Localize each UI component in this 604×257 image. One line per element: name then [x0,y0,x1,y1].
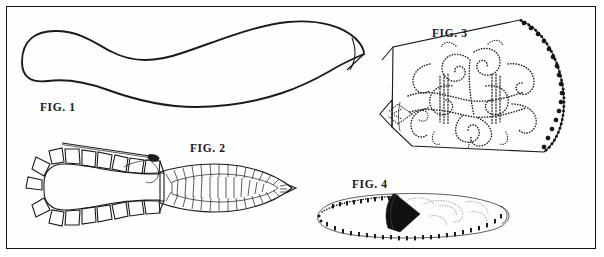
fig2-gathered-sole [26,143,296,226]
fig1-label: FIG. 1 [40,101,76,113]
fig4-finished-moccasin [318,193,510,240]
plate-artwork: .ink { fill:none; stroke:#1a1a1a; } .thi… [0,0,604,257]
fig4-label: FIG. 4 [352,178,388,190]
fig3-label: FIG. 3 [432,27,468,39]
fig3-beaded-vamp [380,20,564,154]
illustration-plate: .ink { fill:none; stroke:#1a1a1a; } .thi… [0,0,604,257]
fig1-sole-outline [22,21,364,107]
fig2-label: FIG. 2 [190,142,226,154]
